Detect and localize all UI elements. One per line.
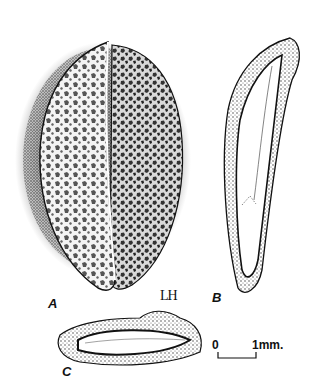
seed-illustration bbox=[0, 0, 318, 379]
panel-a-seed bbox=[15, 42, 191, 290]
panel-c-cross-section bbox=[58, 311, 201, 365]
scale-end-label: 1mm. bbox=[252, 338, 283, 352]
panel-b-longitudinal-section bbox=[224, 38, 299, 292]
artist-signature: LH bbox=[160, 288, 177, 304]
panel-a-label: A bbox=[48, 296, 57, 311]
scale-start-label: 0 bbox=[212, 338, 219, 352]
scale-bar bbox=[218, 352, 256, 358]
panel-c-label: C bbox=[62, 364, 71, 379]
panel-b-label: B bbox=[212, 290, 221, 305]
